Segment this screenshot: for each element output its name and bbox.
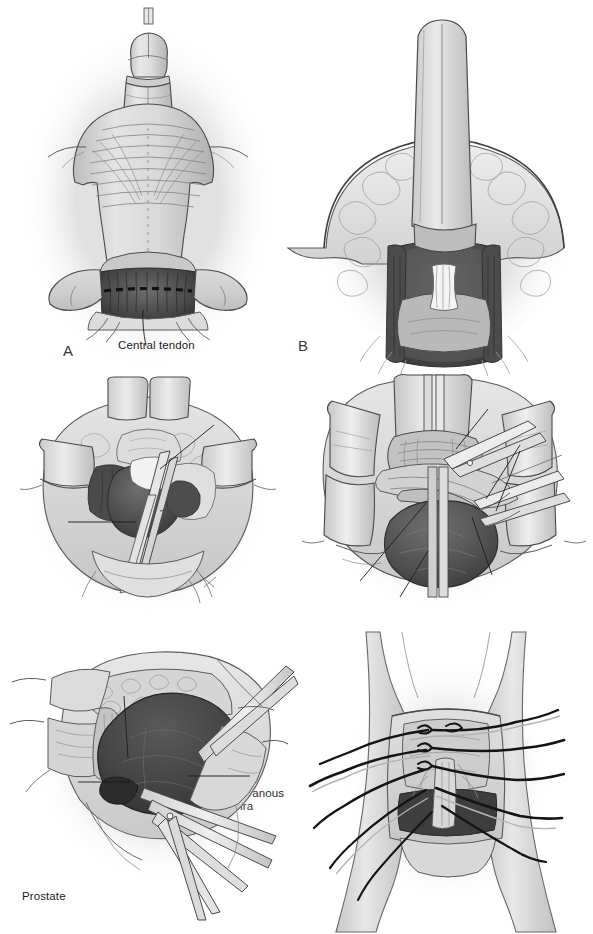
illustration-plate: Central tendon A — [0, 0, 593, 934]
panel-d: Bladder Seminal vesicle Vas deferens Pro… — [296, 375, 593, 630]
label-central-tendon: Central tendon — [118, 339, 195, 352]
panel-a-artwork — [0, 0, 296, 375]
panel-d-artwork — [296, 375, 593, 630]
panel-c: Membranous urethra Prostate C — [0, 375, 296, 630]
panel-b: B — [296, 0, 593, 375]
panel-a: Central tendon A — [0, 0, 296, 375]
panel-e-artwork — [0, 630, 296, 934]
panel-f-artwork — [296, 630, 593, 934]
panel-letter-b: B — [298, 338, 308, 353]
panel-c-artwork — [0, 375, 296, 630]
panel-letter-a: A — [63, 343, 73, 358]
panel-f: F — [296, 630, 593, 934]
panel-e: Bladder Vascular pedicle Prostate E — [0, 630, 296, 934]
panel-b-artwork — [296, 0, 593, 375]
